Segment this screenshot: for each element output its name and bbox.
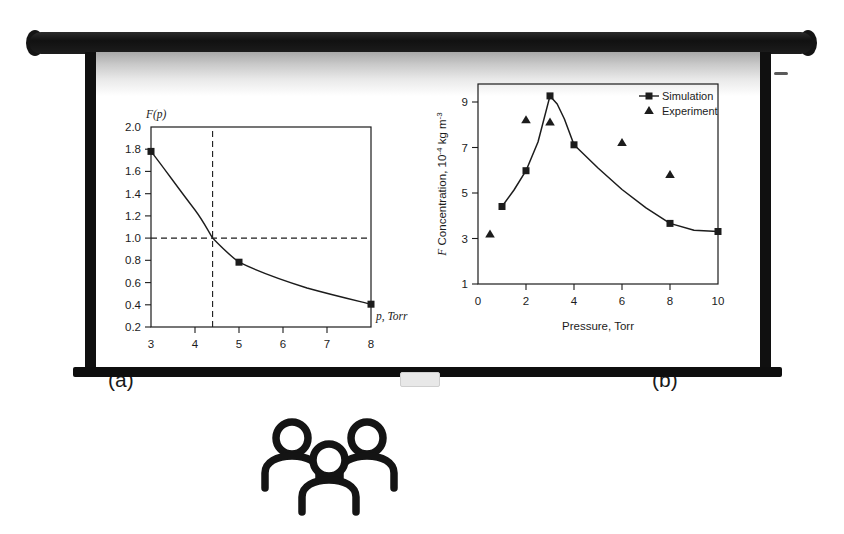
figure-a-xlabel: p, Torr [375, 310, 408, 323]
figure-a-ytick-8: 1.8 [125, 143, 141, 155]
figure-a-ytick-9: 2.0 [125, 121, 141, 133]
figure-a-xtick-0: 3 [148, 338, 154, 350]
figure-b-ytick-4: 9 [462, 96, 468, 108]
screen-rail-right [760, 52, 771, 374]
screen-rail-left [85, 52, 96, 374]
figure-a-xtick-2: 5 [236, 338, 242, 350]
figure-b-xlabel: Pressure, Torr [562, 320, 634, 332]
figure-a-ytick-6: 1.4 [125, 188, 142, 200]
projector-screen-fabric: 0.2 0.4 0.6 0.8 1.0 1.2 1.4 1.6 1.8 2.0 [96, 52, 760, 370]
person-left-head-icon [276, 422, 308, 454]
figure-a-x-axis: 3 4 5 6 7 8 [148, 327, 374, 350]
figure-a-ytick-5: 1.2 [125, 210, 141, 222]
figure-b-xtick-4: 8 [667, 295, 673, 307]
figure-a-ytick-0: 0.2 [125, 321, 141, 333]
figure-b-xtick-0: 0 [475, 295, 481, 307]
figure-b-ylabel-text: Concentration, 10 [436, 155, 448, 249]
projector-screen-pull-handle[interactable] [400, 372, 440, 387]
figure-a-xtick-4: 7 [324, 338, 330, 350]
figure-a-xtick-1: 4 [192, 338, 199, 350]
figure-b-ytick-2: 5 [462, 187, 468, 199]
figure-a-plot-frame [151, 127, 371, 327]
figure-b-x-axis: 0 2 4 6 8 10 [475, 284, 725, 307]
figure-b-ylabel-sup2: -3 [435, 112, 444, 120]
figure-b-ylabel: F Concentration, 10-4 kg m-3 [435, 112, 449, 257]
figure-a-data-markers [148, 148, 375, 308]
roller-screw-icon [774, 72, 788, 75]
projector-screen: 0.2 0.4 0.6 0.8 1.0 1.2 1.4 1.6 1.8 2.0 [0, 0, 844, 400]
figure-b-y-axis: 1 3 5 7 9 [462, 96, 478, 290]
svg-text:F Concentration, 10-4 kg m-3: F Concentration, 10-4 kg m-3 [435, 112, 449, 257]
projector-screen-roller-bar [30, 32, 812, 54]
figure-a-series-curve [151, 151, 371, 304]
figure-a-xtick-5: 8 [368, 338, 374, 350]
figure-b-xtick-2: 4 [571, 295, 578, 307]
figure-b-xtick-5: 10 [712, 295, 725, 307]
figure-b-experiment-markers [485, 115, 675, 237]
figure-a-y-axis: 0.2 0.4 0.6 0.8 1.0 1.2 1.4 1.6 1.8 2.0 [125, 121, 151, 333]
figure-a-ytick-3: 0.8 [125, 254, 141, 266]
people-group-icon-svg [255, 410, 405, 522]
figure-b-ytick-3: 7 [462, 142, 468, 154]
people-group-icon [255, 410, 405, 522]
figure-b-ytick-0: 1 [462, 278, 468, 290]
figure-a-svg: 0.2 0.4 0.6 0.8 1.0 1.2 1.4 1.6 1.8 2.0 [96, 92, 426, 362]
figure-b-legend: Simulation Experiment [639, 90, 718, 117]
figure-b-xtick-3: 6 [619, 295, 625, 307]
figure-a-ytick-2: 0.6 [125, 277, 141, 289]
legend-label-experiment: Experiment [662, 105, 718, 117]
figure-a-xtick-3: 6 [280, 338, 286, 350]
figure-b-ylabel-mid: kg m [436, 119, 448, 147]
person-right-head-icon [351, 422, 383, 454]
person-center-head-icon [313, 444, 345, 476]
chart-figure-b: 1 3 5 7 9 0 2 4 6 8 10 [426, 52, 760, 352]
figure-a-ytick-7: 1.6 [125, 165, 141, 177]
figure-a-ytick-4: 1.0 [125, 232, 141, 244]
person-center-body-icon [302, 480, 356, 512]
figure-b-svg: 1 3 5 7 9 0 2 4 6 8 10 [426, 52, 760, 352]
chart-figure-a: 0.2 0.4 0.6 0.8 1.0 1.2 1.4 1.6 1.8 2.0 [96, 92, 426, 362]
figure-a-ylabel: F(p) [145, 108, 167, 121]
legend-label-simulation: Simulation [662, 90, 713, 102]
figure-b-xtick-1: 2 [523, 295, 529, 307]
figure-a-ytick-1: 0.4 [125, 299, 142, 311]
figure-b-ytick-1: 3 [462, 233, 468, 245]
